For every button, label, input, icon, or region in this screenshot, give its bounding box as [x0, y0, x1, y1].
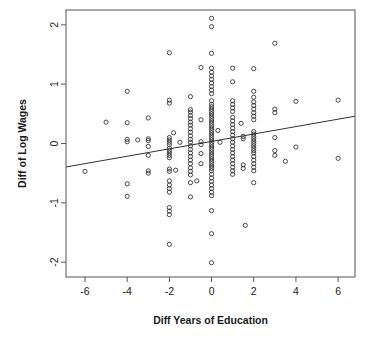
y-tick-label: 2: [48, 22, 60, 28]
y-tick-label: 1: [48, 81, 60, 87]
data-point: [125, 194, 129, 198]
data-point: [336, 156, 340, 160]
data-point: [252, 95, 256, 99]
x-tick-label: 4: [293, 285, 299, 297]
data-point: [167, 51, 171, 55]
scatter-plot-figure: -6-4-20246 -2-1012 Diff Years of Educati…: [0, 0, 374, 339]
data-point: [83, 169, 87, 173]
data-point: [188, 181, 192, 185]
data-point: [188, 195, 192, 199]
x-tick-label: 6: [335, 285, 341, 297]
data-point: [167, 179, 171, 183]
data-point: [231, 66, 235, 70]
data-point: [146, 144, 150, 148]
data-point: [146, 153, 150, 157]
data-point: [199, 118, 203, 122]
data-point: [209, 261, 213, 265]
data-point: [239, 121, 243, 125]
data-point: [209, 25, 213, 29]
data-point: [294, 99, 298, 103]
data-point: [273, 149, 277, 153]
data-point: [252, 89, 256, 93]
data-point: [231, 80, 235, 84]
data-point: [171, 131, 175, 135]
data-point: [283, 159, 287, 163]
y-axis-title: Diff of Log Wages: [16, 99, 28, 188]
x-tick-label: -4: [123, 285, 132, 297]
data-point: [273, 41, 277, 45]
data-point: [336, 98, 340, 102]
y-tick-label: -1: [48, 198, 60, 207]
x-tick-label: -2: [165, 285, 174, 297]
data-point: [273, 135, 277, 139]
plot-frame: [66, 10, 355, 277]
data-point: [294, 145, 298, 149]
data-point: [125, 182, 129, 186]
data-point: [243, 223, 247, 227]
data-point: [209, 51, 213, 55]
x-axis-ticks: -6-4-20246: [80, 277, 341, 297]
plot-svg: -6-4-20246 -2-1012 Diff Years of Educati…: [0, 0, 374, 339]
y-tick-label: 0: [48, 140, 60, 146]
data-point: [252, 181, 256, 185]
data-point: [125, 89, 129, 93]
data-point: [209, 16, 213, 20]
data-point: [195, 179, 199, 183]
data-point: [209, 66, 213, 70]
data-point: [209, 208, 213, 212]
x-tick-label: 0: [209, 285, 215, 297]
x-tick-label: 2: [251, 285, 257, 297]
data-point: [174, 168, 178, 172]
data-point: [252, 67, 256, 71]
data-point: [167, 242, 171, 246]
data-point: [188, 95, 192, 99]
data-point: [167, 101, 171, 105]
data-point: [216, 128, 220, 132]
data-point: [209, 232, 213, 236]
data-point: [178, 140, 182, 144]
data-point: [218, 140, 222, 144]
data-point: [104, 120, 108, 124]
x-axis-title: Diff Years of Education: [153, 314, 268, 326]
y-tick-label: -2: [48, 257, 60, 266]
plot-border: [66, 10, 355, 277]
data-point: [199, 151, 203, 155]
data-point: [199, 162, 203, 166]
x-tick-label: -6: [80, 285, 89, 297]
data-point: [136, 138, 140, 142]
y-axis-ticks: -2-1012: [48, 22, 66, 267]
data-point: [199, 65, 203, 69]
data-point: [125, 121, 129, 125]
data-points-layer: [83, 16, 340, 265]
data-point: [273, 153, 277, 157]
data-point: [146, 116, 150, 120]
